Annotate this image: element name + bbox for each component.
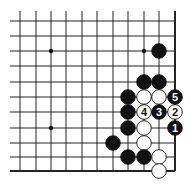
black-stone: 1: [168, 121, 183, 136]
black-stone: [121, 150, 136, 165]
go-board: 54321: [0, 0, 191, 185]
black-stone: [121, 121, 136, 136]
black-stone: [106, 136, 121, 151]
move-number: 5: [172, 91, 178, 103]
white-stone: [152, 90, 167, 105]
move-number: 4: [141, 106, 148, 118]
white-stone: 4: [137, 105, 152, 120]
move-number: 3: [156, 106, 162, 118]
black-stone: [152, 75, 167, 90]
white-stone: [137, 121, 152, 136]
black-stone: 5: [168, 90, 183, 105]
black-stone: [137, 75, 152, 90]
move-number: 1: [172, 122, 178, 134]
star-point: [49, 126, 53, 130]
white-stone: [137, 90, 152, 105]
black-stone: [121, 105, 136, 120]
black-stone: 3: [152, 105, 167, 120]
move-number: 2: [172, 106, 178, 118]
star-point: [49, 49, 53, 53]
star-point: [142, 49, 146, 53]
white-stone: [152, 150, 167, 165]
black-stone: [152, 44, 167, 59]
white-stone: [152, 164, 167, 179]
white-stone: [137, 136, 152, 151]
white-stone: 2: [168, 105, 183, 120]
black-stone: [137, 150, 152, 165]
black-stone: [121, 90, 136, 105]
